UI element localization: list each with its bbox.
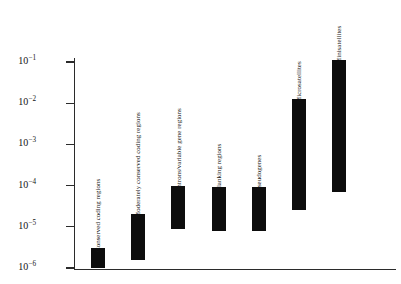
bar-label-2: Moderately conserved coding regions — [134, 113, 141, 219]
bar-5 — [252, 187, 266, 230]
bar-label-4: Flanking regions — [215, 144, 222, 191]
bar-2 — [131, 214, 145, 259]
bar-label-3: Introns/variable gene regions — [175, 108, 182, 190]
bar-7 — [332, 60, 346, 192]
bar-6 — [292, 99, 306, 211]
bar-4 — [212, 187, 226, 230]
chart-figure: Substitutions per locus per year 10−110−… — [0, 0, 401, 284]
bar-label-7: Minisatellites — [335, 26, 342, 64]
bar-label-6: Microsatellites — [295, 61, 302, 103]
plot-area: Conserved coding regionsModerately conse… — [0, 0, 401, 284]
bar-3 — [171, 186, 185, 229]
bar-label-5: Pseudogenes — [255, 155, 262, 191]
bar-label-1: Conserved coding regions — [94, 179, 101, 252]
